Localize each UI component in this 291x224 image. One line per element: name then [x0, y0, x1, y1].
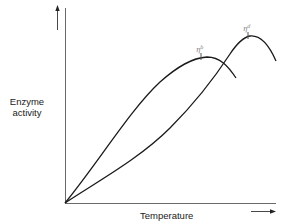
- y-axis-label-line1: Enzyme: [3, 96, 51, 107]
- enzyme-activity-diagram: Enzyme activity Temperature ηb ηd: [0, 0, 291, 224]
- right-arrow-icon: [251, 209, 276, 213]
- curve-d-label: ηd: [243, 22, 250, 33]
- curve-b: [65, 57, 236, 203]
- curve-b-label: ηb: [196, 43, 203, 54]
- curve-d: [65, 36, 276, 203]
- curve-b-label-sup: b: [200, 44, 203, 50]
- y-axis-label-line2: activity: [3, 107, 51, 118]
- y-axis-label: Enzyme activity: [3, 96, 51, 118]
- curve-d-label-sup: d: [247, 23, 250, 29]
- up-arrow-icon: [55, 5, 59, 30]
- x-axis-label: Temperature: [140, 210, 193, 221]
